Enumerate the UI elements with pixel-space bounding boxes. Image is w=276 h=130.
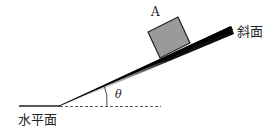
incline-slope (58, 26, 233, 106)
horizontal-label: 水平面 (18, 109, 57, 128)
angle-label: θ (115, 88, 122, 101)
block-label: A (151, 5, 160, 19)
incline-label: 斜面 (237, 21, 263, 40)
